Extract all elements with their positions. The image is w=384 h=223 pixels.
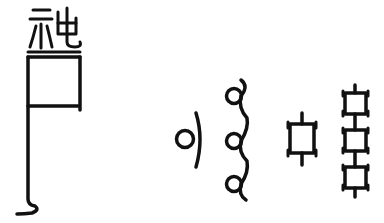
- single-box-figure: [288, 113, 316, 165]
- triple-loop-figure: [227, 80, 248, 200]
- seal-glyph-top: [28, 8, 80, 52]
- diagram-canvas: [0, 0, 384, 223]
- full-character-figure: [17, 8, 80, 214]
- box-and-tail: [17, 57, 80, 214]
- triple-box-figure: [343, 85, 368, 197]
- single-loop-figure: [177, 113, 201, 167]
